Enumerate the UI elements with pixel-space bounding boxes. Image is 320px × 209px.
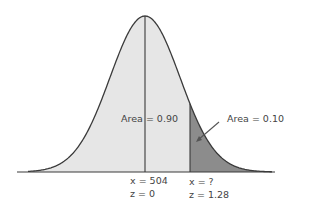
mean-x-label: x = 504 [130, 176, 168, 186]
right-area-label: Area = 0.10 [227, 114, 284, 124]
area-left-fill [28, 16, 190, 172]
cutoff-x-label: x = ? [189, 177, 214, 187]
mean-z-label: z = 0 [130, 189, 155, 199]
left-area-label: Area = 0.90 [121, 114, 178, 124]
cutoff-z-label: z = 1.28 [189, 190, 229, 200]
